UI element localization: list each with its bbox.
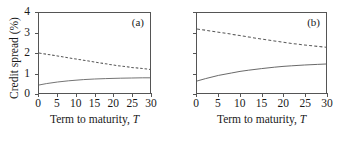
panel-a-x-axis-label: Term to maturity, T: [38, 113, 151, 125]
dashed-curve-a: [39, 53, 150, 69]
y-tick-mark: [193, 33, 197, 34]
solid-curve-a: [39, 78, 150, 85]
x-tick-label: 30: [319, 98, 335, 110]
y-tick-label: 0: [16, 88, 30, 100]
x-tick-label: 0: [30, 98, 46, 110]
x-tick-label: 0: [188, 98, 204, 110]
panel-b-tag: (b): [307, 16, 320, 28]
x-tick-label: 30: [143, 98, 159, 110]
x-tick-label: 15: [87, 98, 103, 110]
x-tick-label: 10: [68, 98, 84, 110]
panel-b-x-axis-label: Term to maturity, T: [196, 113, 327, 125]
x-axis-label-symbol: T: [300, 113, 306, 125]
x-tick-label: 25: [297, 98, 313, 110]
y-tick-mark: [35, 12, 39, 13]
y-tick-label: 4: [16, 6, 30, 18]
x-tick-label: 20: [105, 98, 121, 110]
x-tick-label: 5: [49, 98, 65, 110]
x-axis-label-symbol: T: [133, 113, 139, 125]
solid-curve-b: [197, 64, 326, 81]
x-tick-label: 5: [210, 98, 226, 110]
credit-spread-figure: Credit spread (%) (a) 01234 051015202530…: [0, 0, 342, 144]
y-tick-mark: [35, 53, 39, 54]
y-tick-label: 1: [16, 68, 30, 80]
x-tick-label: 10: [232, 98, 248, 110]
x-tick-label: 15: [254, 98, 270, 110]
x-axis-label-text: Term to maturity,: [217, 113, 300, 125]
y-tick-mark: [193, 12, 197, 13]
panel-a-tag: (a): [132, 16, 144, 28]
y-tick-mark: [193, 53, 197, 54]
x-tick-label: 20: [275, 98, 291, 110]
y-tick-label: 2: [16, 47, 30, 59]
x-tick-label: 25: [124, 98, 140, 110]
x-axis-label-text: Term to maturity,: [50, 113, 133, 125]
panel-a-plot-area: (a): [38, 12, 151, 94]
panel-b-plot-area: (b): [196, 12, 327, 94]
y-tick-mark: [193, 74, 197, 75]
y-tick-label: 3: [16, 27, 30, 39]
y-tick-mark: [35, 74, 39, 75]
dashed-curve-b: [197, 29, 326, 47]
y-tick-mark: [35, 33, 39, 34]
